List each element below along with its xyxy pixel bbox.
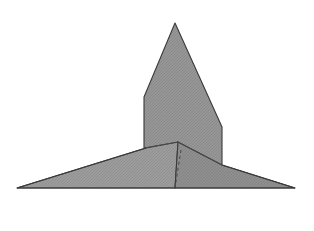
figure-svg [0, 0, 314, 231]
figure-faces [17, 23, 295, 188]
figure-canvas [0, 0, 314, 231]
face-upright-body [144, 23, 222, 165]
face-left-wing [17, 142, 178, 188]
